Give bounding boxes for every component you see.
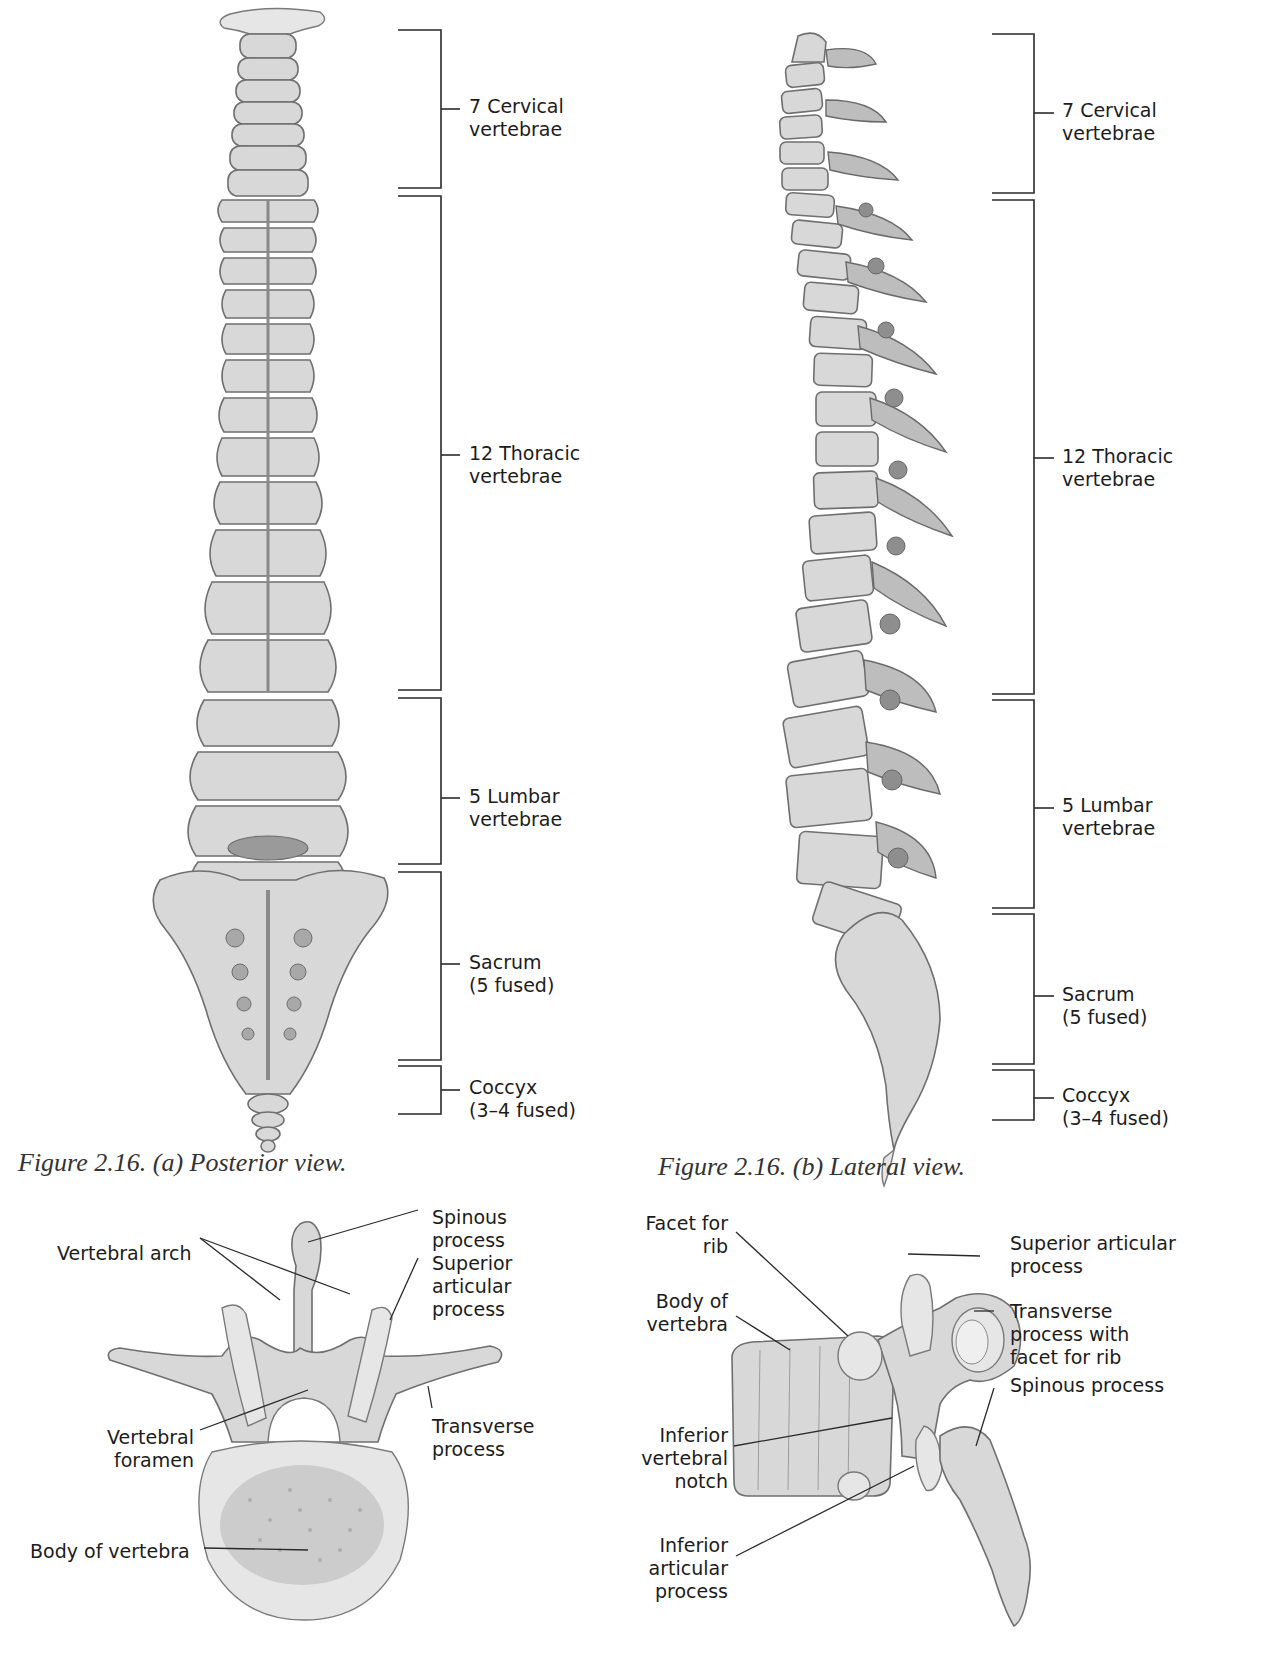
label-lumbar: 5 Lumbar vertebrae [1062,794,1155,840]
vertebra-lateral-view: Facet for rib Superior articular process… [640,1190,1274,1665]
cervical-vertebrae [228,34,308,196]
lateral-view-figure: 7 Cervical vertebrae 12 Thoracic vertebr… [640,0,1274,1200]
label-transverse-process-with-facet: Transverse process with facet for rib [1010,1300,1129,1369]
lateral-spine-illustration [640,0,1274,1200]
lateral-region-brackets [992,34,1054,1120]
caption-lateral-view: Figure 2.16. (b) Lateral view. [658,1152,965,1182]
label-body-of-vertebra: Body of vertebra [640,1290,728,1336]
label-cervical: 7 Cervical vertebrae [469,95,564,141]
lumbar-vertebrae [188,700,348,896]
label-superior-articular-process: Superior articular process [1010,1232,1176,1278]
label-coccyx: Coccyx (3–4 fused) [469,1076,576,1122]
region-brackets [398,30,460,1114]
label-sacrum: Sacrum (5 fused) [469,951,554,997]
label-body-of-vertebra: Body of vertebra [30,1540,190,1563]
label-thoracic: 12 Thoracic vertebrae [469,442,580,488]
label-thoracic: 12 Thoracic vertebrae [1062,445,1173,491]
label-vertebral-foramen: Vertebral foramen [60,1426,194,1472]
label-facet-for-rib: Facet for rib [640,1212,728,1258]
vertebra-superior-view: Spinous process Vertebral arch Superior … [0,1190,640,1665]
lateral-sacrum [835,913,940,1150]
posterior-spine-illustration [0,0,640,1200]
label-coccyx: Coccyx (3–4 fused) [1062,1084,1169,1130]
label-superior-articular-process: Superior articular process [432,1252,512,1321]
label-spinous-process: Spinous process [432,1206,507,1252]
label-cervical: 7 Cervical vertebrae [1062,99,1157,145]
label-inferior-vertebral-notch: Inferior vertebral notch [640,1424,728,1493]
label-sacrum: Sacrum (5 fused) [1062,983,1147,1029]
label-transverse-process: Transverse process [432,1415,535,1461]
vertebra-lateral-illustration [640,1190,1274,1665]
label-lumbar: 5 Lumbar vertebrae [469,785,562,831]
posterior-view-figure: 7 Cervical vertebrae 12 Thoracic vertebr… [0,0,640,1200]
label-spinous-process: Spinous process [1010,1374,1164,1397]
caption-posterior-view: Figure 2.16. (a) Posterior view. [18,1148,347,1178]
coccyx [248,1094,288,1152]
label-inferior-articular-process: Inferior articular process [640,1534,728,1603]
label-vertebral-arch: Vertebral arch [57,1242,192,1265]
thoracic-vertebrae [200,200,336,692]
sacrum [153,870,388,1094]
